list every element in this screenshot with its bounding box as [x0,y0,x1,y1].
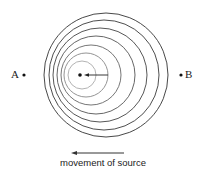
point-a-label: A [11,69,19,80]
arrowhead-icon [71,151,77,155]
doppler-diagram [0,0,206,171]
movement-caption: movement of source [60,158,146,168]
arrowhead-icon [84,73,89,77]
point-b-label: B [185,69,192,80]
point-a-dot [22,73,25,76]
point-b-dot [179,73,182,76]
source-dot [78,73,82,77]
